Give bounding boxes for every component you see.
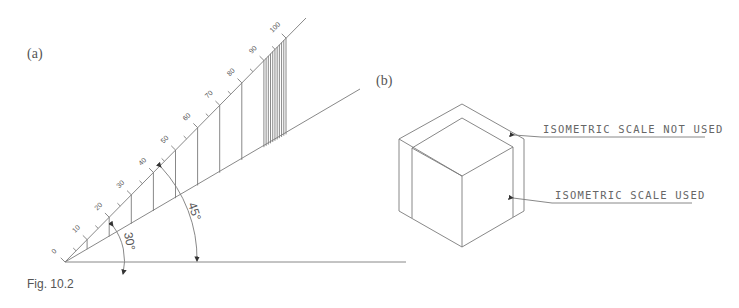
figure-caption: Fig. 10.2: [27, 277, 74, 291]
projector-lines: [87, 38, 286, 249]
scale-tick: [228, 91, 231, 94]
scale-tick: [162, 158, 165, 161]
true-scale-45-degree-line: [65, 18, 306, 262]
scale-label: 50: [159, 134, 170, 145]
scale-label: 10: [71, 223, 82, 234]
scale-labels: 0102030405060708090100: [50, 20, 282, 255]
scale-tick: [73, 248, 76, 251]
scale-label: 30: [115, 179, 126, 190]
scale-tick: [184, 136, 187, 139]
scale-label: 60: [181, 111, 192, 122]
panel-label-b: (b): [376, 73, 392, 89]
cube-inner-top-right-edge: [462, 147, 513, 176]
scale-label: 20: [93, 201, 104, 212]
cube-inner-top: [412, 118, 513, 148]
scale-tick: [282, 34, 286, 38]
scale-label: 100: [268, 20, 281, 33]
callout-isometric-scale-used: ISOMETRIC SCALE USED: [555, 189, 705, 201]
scale-tick: [206, 114, 209, 117]
scale-tick: [171, 146, 175, 150]
scale-tick: [140, 181, 143, 184]
scale-tick: [149, 168, 153, 172]
scale-tick: [95, 226, 98, 229]
scale-tick: [193, 123, 197, 127]
scale-tick: [105, 213, 109, 217]
diagram-canvas: 0102030405060708090100 30° 45°: [0, 0, 739, 308]
scale-label: 0: [50, 247, 58, 255]
figure-10-2: 0102030405060708090100 30° 45° (a) (b) I…: [0, 0, 739, 308]
scale-label: 40: [137, 156, 148, 167]
scale-tick: [238, 79, 242, 83]
scale-tick: [260, 56, 264, 60]
scale-tick: [250, 69, 253, 72]
angle-label-45: 45°: [185, 201, 204, 223]
panel-label-a: (a): [27, 46, 43, 62]
panel-a-construction: [61, 18, 406, 274]
scale-label: 70: [203, 89, 214, 100]
scale-label: 80: [226, 67, 237, 78]
scale-ticks: [61, 34, 286, 262]
scale-tick: [83, 235, 87, 239]
cube-inner-top-left-edge: [412, 148, 462, 176]
scale-label: 90: [248, 44, 259, 55]
callout-isometric-scale-not-used: ISOMETRIC SCALE NOT USED: [543, 123, 724, 135]
scale-tick: [127, 191, 131, 195]
scale-tick: [272, 46, 275, 49]
scale-tick: [61, 258, 65, 262]
leader-not-used: [514, 135, 705, 137]
scale-tick: [117, 203, 120, 206]
scale-tick: [215, 101, 219, 105]
